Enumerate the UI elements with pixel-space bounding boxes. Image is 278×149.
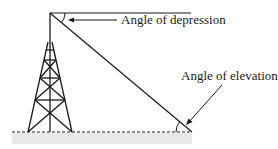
ground-band: [12, 133, 192, 144]
angle-of-depression-label: Angle of depression: [121, 13, 226, 26]
elevation-arc: [176, 122, 180, 132]
tower: [28, 13, 72, 132]
elevation-arrow: [188, 85, 222, 123]
depression-arc: [62, 13, 66, 23]
line-of-sight: [50, 13, 192, 132]
depression-arrowhead: [68, 18, 74, 23]
angle-of-elevation-label: Angle of elevation: [181, 69, 278, 82]
